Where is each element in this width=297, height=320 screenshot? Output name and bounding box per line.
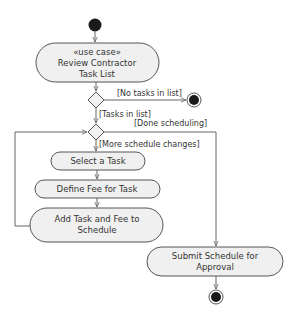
add-task-label-line2: Schedule xyxy=(77,225,116,235)
add-task-label-line1: Add Task and Fee to xyxy=(54,214,139,224)
activity-diagram: «use case» Review Contractor Task List [… xyxy=(0,0,297,320)
decision-node-tasks xyxy=(88,92,104,108)
review-stereotype: «use case» xyxy=(73,47,121,57)
action-select-a-task: Select a Task xyxy=(51,152,145,170)
action-define-fee: Define Fee for Task xyxy=(35,180,160,198)
guard-no-tasks: [No tasks in list] xyxy=(117,89,182,98)
decision-node-scheduling xyxy=(88,124,104,140)
guard-tasks-in-list: [Tasks in list] xyxy=(99,110,151,119)
action-add-task-and-fee: Add Task and Fee to Schedule xyxy=(30,208,163,242)
action-submit-schedule: Submit Schedule for Approval xyxy=(147,247,283,276)
initial-node xyxy=(89,19,102,32)
final-node-no-tasks xyxy=(187,93,201,107)
review-label-line2: Task List xyxy=(78,69,116,79)
final-node-end xyxy=(209,290,223,304)
define-fee-label: Define Fee for Task xyxy=(57,184,138,194)
submit-label-line1: Submit Schedule for xyxy=(172,251,259,261)
action-review-contractor-task-list: «use case» Review Contractor Task List xyxy=(36,43,159,82)
guard-more-changes: [More schedule changes] xyxy=(99,140,200,149)
submit-label-line2: Approval xyxy=(196,262,234,272)
guard-done-scheduling: [Done scheduling] xyxy=(134,119,207,128)
select-task-label: Select a Task xyxy=(70,156,125,166)
review-label-line1: Review Contractor xyxy=(58,58,137,68)
